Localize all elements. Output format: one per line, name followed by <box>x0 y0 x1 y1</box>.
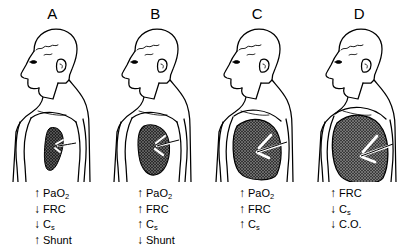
panel-a: A <box>0 0 101 252</box>
stat-line: ↓C.O. <box>330 217 407 233</box>
arrow-icon: ↑ <box>330 186 339 202</box>
stat-label: Cs <box>146 217 158 234</box>
arrow-icon: ↑ <box>137 186 146 202</box>
arrow-icon: ↑ <box>239 217 248 233</box>
arrow-icon: ↑ <box>34 233 43 249</box>
arrow-icon: ↑ <box>34 186 43 202</box>
panel-d: D <box>305 0 406 252</box>
stat-label: Cs <box>248 217 260 234</box>
figure-torso-b <box>101 22 202 182</box>
stat-label: FRC <box>248 202 271 219</box>
stat-label: FRC <box>146 202 169 219</box>
arrow-icon: ↓ <box>137 233 146 249</box>
stat-label: FRC <box>43 202 66 219</box>
panel-letter-d: D <box>305 6 407 22</box>
panel-letter-a: A <box>0 6 103 22</box>
figure-torso-d <box>305 22 406 182</box>
figure-torso-a <box>0 22 101 182</box>
panel-c: C <box>203 0 304 252</box>
stat-label: Shunt <box>146 233 175 250</box>
stat-label: Cs <box>43 217 55 234</box>
stats-list-d: ↑FRC ↓Cs ↓C.O. <box>305 186 407 233</box>
arrow-icon: ↓ <box>34 217 43 233</box>
panel-letter-b: B <box>101 6 206 22</box>
stat-label: PaO2 <box>248 186 274 203</box>
arrow-icon: ↑ <box>239 202 248 218</box>
arrow-icon: ↓ <box>330 217 339 233</box>
panel-letter-c: C <box>203 6 308 22</box>
stat-line: ↓Cs <box>330 202 407 218</box>
figure-torso-c <box>203 22 304 182</box>
stat-label: FRC <box>339 186 362 203</box>
arrow-icon: ↑ <box>239 186 248 202</box>
stat-label: Cs <box>339 202 351 219</box>
arrow-icon: ↓ <box>330 202 339 218</box>
stat-label: PaO2 <box>146 186 172 203</box>
arrow-icon: ↑ <box>137 202 146 218</box>
stat-label: Shunt <box>43 233 72 250</box>
stat-label: PaO2 <box>43 186 69 203</box>
stat-label: C.O. <box>339 217 362 234</box>
arrow-icon: ↓ <box>34 202 43 218</box>
arrow-icon: ↑ <box>137 217 146 233</box>
panel-b: B <box>101 0 202 252</box>
stat-line: ↑FRC <box>330 186 407 202</box>
